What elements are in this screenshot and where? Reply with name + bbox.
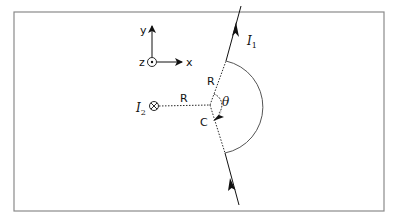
z-axis-label: z — [139, 56, 145, 69]
x-axis-label: x — [186, 56, 193, 69]
coordinate-axes: y z x — [139, 24, 193, 69]
theta-arrow-icon — [213, 111, 224, 121]
horizontal-radius-label: R — [180, 92, 188, 105]
center-label: C — [200, 116, 208, 129]
y-axis-label: y — [140, 24, 147, 37]
horizontal-radius-dotted — [159, 105, 210, 106]
z-axis-dot-icon — [151, 61, 153, 63]
wire-2: I2 — [135, 101, 159, 117]
wire-1: I1 — [225, 6, 257, 205]
physics-diagram: y z x I1 θ R R C I2 — [0, 0, 400, 223]
theta-angle-arc — [214, 94, 222, 113]
lower-radius-dotted — [210, 105, 225, 153]
wire-1-arc — [225, 61, 263, 153]
theta-label: θ — [222, 95, 230, 109]
upper-radius-label: R — [207, 75, 215, 88]
radius-lines — [159, 61, 226, 153]
wire-1-upper-arrow-icon — [232, 22, 239, 37]
wire-1-lower-segment — [225, 153, 239, 205]
figure-frame — [14, 12, 384, 211]
wire-1-label: I1 — [246, 34, 257, 50]
wire-2-label: I2 — [135, 101, 146, 117]
